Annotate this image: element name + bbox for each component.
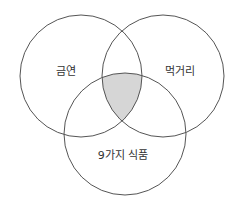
label-food: 먹거리 (165, 65, 195, 78)
label-nine-foods: 9가지 식품 (98, 149, 149, 162)
venn-diagram: 금연 먹거리 9가지 식품 (0, 0, 240, 208)
highlighted-intersection (64, 73, 186, 195)
label-smoking-cessation: 금연 (56, 65, 76, 78)
